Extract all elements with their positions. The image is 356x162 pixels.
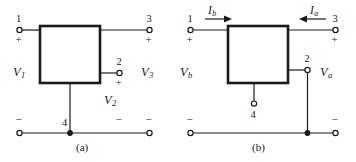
panel-b-terminal-3-number: 3 xyxy=(333,14,338,25)
circuit-figure: 1 + 3 + 2 + 4 V1 V2 V3 − − − (a) 1 + 3 +… xyxy=(0,0,356,162)
panel-a-network-box xyxy=(40,26,100,83)
panel-a-voltage-v3-symbol: V xyxy=(141,65,149,79)
panel-a-terminal-1-node xyxy=(17,27,22,32)
panel-b-voltage-vb-symbol: V xyxy=(180,65,188,79)
panel-b-terminal-2-node xyxy=(305,67,310,72)
panel-b-rail-terminal-left-node xyxy=(188,130,193,135)
panel-a-terminal-3-node xyxy=(147,27,152,32)
circuit-drawing xyxy=(0,0,356,162)
panel-b-terminal-4-number: 4 xyxy=(251,110,256,121)
panel-a-voltage-v1: V1 xyxy=(13,66,25,80)
panel-b-voltage-vb-subscript: b xyxy=(188,70,192,80)
panel-a-voltage-v2-symbol: V xyxy=(104,93,112,107)
panel-b-caption: (b) xyxy=(252,142,265,153)
panel-b-terminal-3-node xyxy=(333,27,338,32)
panel-a-minus-sign-left: − xyxy=(16,114,22,125)
panel-a-caption: (a) xyxy=(76,142,88,153)
panel-a-voltage-v1-symbol: V xyxy=(13,65,21,79)
panel-a-voltage-v1-subscript: 1 xyxy=(21,70,25,80)
panel-b-voltage-va: Va xyxy=(320,66,332,80)
panel-b-terminal-1-number: 1 xyxy=(188,14,193,25)
panel-b-voltage-va-symbol: V xyxy=(320,65,328,79)
panel-b-current-ib: Ib xyxy=(208,5,216,18)
panel-b-terminal-1-node xyxy=(188,27,193,32)
panel-b-terminal-2-number: 2 xyxy=(305,54,310,65)
panel-a-terminal-4-number: 4 xyxy=(62,118,67,129)
panel-a-voltage-v3: V3 xyxy=(141,66,153,80)
panel-a-drawing xyxy=(17,26,152,136)
panel-a-junction-dot-4 xyxy=(67,130,73,136)
panel-a-terminal-2-number: 2 xyxy=(117,57,122,68)
panel-a-voltage-v2: V2 xyxy=(104,94,116,108)
panel-b-current-ia-subscript: a xyxy=(314,9,318,18)
panel-b-voltage-va-subscript: a xyxy=(328,70,332,80)
panel-a-voltage-v2-subscript: 2 xyxy=(112,98,116,108)
panel-b-minus-sign-right: − xyxy=(332,114,338,125)
panel-a-terminal-2-node xyxy=(117,70,122,75)
panel-a-rail-terminal-left-node xyxy=(17,130,22,135)
panel-b-rail-terminal-right-node xyxy=(333,130,338,135)
panel-b-minus-sign-left: − xyxy=(187,114,193,125)
panel-b-junction-dot-rail xyxy=(305,130,311,136)
panel-b-voltage-vb: Vb xyxy=(180,66,192,80)
panel-a-terminal-2-plus-sign: + xyxy=(116,77,122,88)
panel-a-terminal-1-number: 1 xyxy=(16,14,21,25)
panel-a-voltage-v3-subscript: 3 xyxy=(149,70,153,80)
panel-a-rail-terminal-right-node xyxy=(147,130,152,135)
panel-b-drawing xyxy=(188,16,338,136)
panel-a-terminal-3-number: 3 xyxy=(147,14,152,25)
panel-b-terminal-3-plus-sign: + xyxy=(332,34,338,45)
panel-a-terminal-1-plus-sign: + xyxy=(16,34,22,45)
panel-a-minus-sign-mid: − xyxy=(116,114,122,125)
panel-b-current-ia: Ia xyxy=(310,5,318,18)
panel-b-network-box xyxy=(228,26,288,83)
panel-a-minus-sign-right: − xyxy=(146,114,152,125)
panel-b-terminal-4-node xyxy=(251,101,256,106)
panel-b-terminal-1-plus-sign: + xyxy=(187,34,193,45)
panel-a-terminal-3-plus-sign: + xyxy=(146,34,152,45)
panel-b-current-ib-subscript: b xyxy=(212,9,216,18)
